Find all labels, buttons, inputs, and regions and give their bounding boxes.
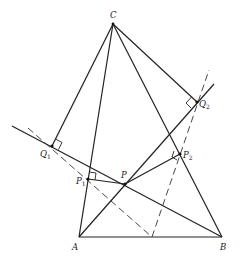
label-B: B — [219, 242, 226, 252]
right-angle-Q1 — [56, 139, 63, 150]
point-P — [123, 182, 126, 185]
label-C: C — [110, 10, 117, 20]
dashed-line-left — [28, 128, 152, 237]
point-P2 — [178, 152, 181, 155]
label-Q2: Q2 — [199, 99, 210, 110]
geometry-figure: C A B P P1 P2 Q1 Q2 — [0, 0, 240, 257]
label-A: A — [71, 242, 78, 252]
label-Q1: Q1 — [40, 149, 51, 160]
segment-PP1 — [88, 179, 125, 184]
point-C — [112, 23, 115, 26]
label-P2: P2 — [182, 150, 193, 161]
right-angle-Q2 — [186, 97, 192, 108]
line-B-Q1 — [12, 126, 222, 237]
segment-CQ2 — [113, 24, 197, 102]
label-P1: P1 — [75, 176, 86, 187]
label-P: P — [120, 170, 127, 180]
point-P1 — [86, 177, 89, 180]
point-Q1 — [50, 144, 53, 147]
segment-BC — [113, 24, 222, 237]
